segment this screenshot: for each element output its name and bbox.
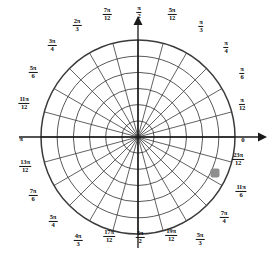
grid-ray-9 <box>69 68 138 137</box>
up-arrow-icon <box>134 16 143 25</box>
plotted-point-marker[interactable] <box>211 169 220 178</box>
grid-ray-3 <box>138 68 207 137</box>
plotted-point[interactable] <box>211 169 220 178</box>
polar-grid-canvas <box>0 0 272 265</box>
grid-ray-22 <box>138 137 222 186</box>
grid-ray-4 <box>138 53 187 137</box>
grid-ray-14 <box>54 137 138 186</box>
grid-ray-21 <box>138 137 207 206</box>
grid-ray-2 <box>138 89 222 138</box>
polar-grid-figure: 0π12π6π4π35π12π27π122π33π45π611π12π13π12… <box>0 0 272 265</box>
grid-ray-15 <box>69 137 138 206</box>
grid-ray-20 <box>138 137 187 221</box>
grid-ray-8 <box>90 53 139 137</box>
grid-ray-16 <box>90 137 139 221</box>
grid-ray-10 <box>54 89 138 138</box>
right-arrow-icon <box>258 133 267 142</box>
